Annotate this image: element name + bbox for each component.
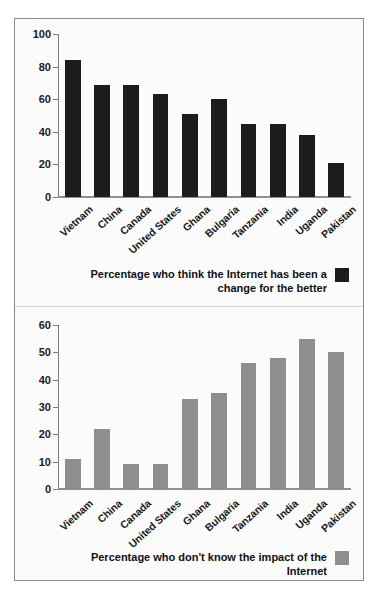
y-tick-label: 80 [39, 61, 51, 73]
legend-swatch-grey [335, 551, 349, 565]
x-tick-label: Vietnam [57, 203, 95, 239]
bar [94, 429, 110, 489]
bar [211, 393, 227, 489]
bar [182, 399, 198, 489]
bar [270, 358, 286, 489]
y-tick-label: 40 [39, 374, 51, 386]
bar [123, 464, 139, 489]
bar [299, 135, 315, 197]
bar [328, 163, 344, 197]
bar [94, 85, 110, 197]
bar [328, 352, 344, 489]
y-tick-mark [53, 197, 58, 198]
bar [211, 99, 227, 197]
bar [270, 124, 286, 197]
x-tick-label-group-top: VietnamChinaCanadaUnited StatesGhanaBulg… [15, 199, 363, 265]
legend-label-bottom: Percentage who don't know the impact of … [75, 550, 327, 578]
bar [182, 114, 198, 197]
chart-panel-bottom: 0102030405060 VietnamChinaCanadaUnited S… [15, 306, 363, 580]
bar-group-bottom [58, 325, 351, 489]
bar [65, 459, 81, 489]
bar [241, 124, 257, 197]
chart-panel-top: 020406080100 VietnamChinaCanadaUnited St… [15, 19, 363, 306]
y-tick-label: 60 [39, 93, 51, 105]
bar [153, 94, 169, 197]
bar-group-top [58, 34, 351, 197]
legend-line-1: change for the better [90, 281, 327, 295]
bar [299, 339, 315, 489]
plot-area-top: 020406080100 [58, 34, 351, 197]
y-tick-label: 50 [39, 346, 51, 358]
legend-label-top: Percentage who think the Internet has be… [90, 267, 327, 295]
y-tick-label: 20 [39, 428, 51, 440]
legend-swatch-dark [335, 268, 349, 282]
bar [65, 60, 81, 197]
y-tick-label: 40 [39, 126, 51, 138]
y-tick-label: 60 [39, 319, 51, 331]
y-tick-label: 30 [39, 401, 51, 413]
legend-bottom: Percentage who don't know the impact of … [15, 550, 363, 578]
bar [241, 363, 257, 489]
x-tick-label: Vietnam [57, 497, 95, 533]
bar [123, 85, 139, 197]
y-tick-label: 20 [39, 158, 51, 170]
legend-top: Percentage who think the Internet has be… [15, 267, 363, 295]
figure-container: 020406080100 VietnamChinaCanadaUnited St… [14, 18, 364, 581]
bar [153, 464, 169, 489]
legend-line-0: Percentage who think the Internet has be… [90, 267, 327, 281]
y-tick-mark [53, 489, 58, 490]
y-tick-label: 100 [33, 28, 51, 40]
y-tick-label: 10 [39, 456, 51, 468]
legend-line-0: Percentage who don't know the impact of … [75, 550, 327, 578]
plot-area-bottom: 0102030405060 [58, 325, 351, 489]
